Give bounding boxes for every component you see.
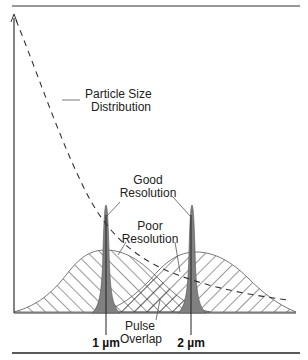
label-good-1: Good [133,173,162,187]
label-poor-1: Poor [137,219,162,233]
label-particle-size-1: Particle Size [85,87,152,101]
leader-good-left [106,202,120,217]
y-axis [11,14,17,313]
diagram: Particle Size Distribution Good Resoluti… [0,0,308,360]
label-2um: 2 µm [177,336,205,350]
label-poor-2: Resolution [122,232,179,246]
label-1um: 1 µm [92,336,120,350]
label-good-2: Resolution [120,186,177,200]
label-pulse-1: Pulse [125,319,155,333]
label-particle-size-2: Distribution [91,100,151,114]
label-pulse-2: Overlap [120,332,162,346]
particle-size-distribution-curve [16,20,288,300]
